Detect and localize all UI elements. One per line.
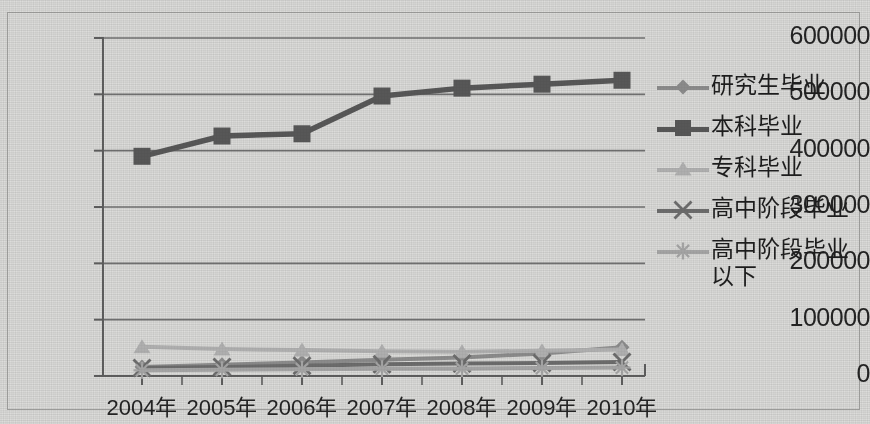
legend-item-2[interactable]: 专科毕业	[655, 154, 865, 182]
legend-label-0: 研究生毕业	[711, 72, 826, 99]
legend-item-0[interactable]: 研究生毕业	[655, 72, 865, 100]
legend-label-3: 高中阶段毕业	[711, 195, 849, 222]
series-2	[134, 339, 631, 358]
legend-marker-star-icon	[655, 238, 711, 264]
data-point-star	[134, 362, 151, 379]
data-point-star	[614, 359, 631, 376]
legend-item-1[interactable]: 本科毕业	[655, 113, 865, 141]
legend-marker-diamond-icon	[655, 74, 711, 100]
chart-legend: 研究生毕业本科毕业专科毕业高中阶段毕业高中阶段毕业以下	[655, 72, 865, 303]
x-tick-label: 2008年	[417, 389, 507, 421]
data-point-square	[614, 72, 631, 89]
legend-label-4: 高中阶段毕业以下	[711, 236, 861, 290]
data-point-star	[374, 360, 391, 377]
legend-marker-triangle-icon	[655, 156, 711, 182]
legend-label-2: 专科毕业	[711, 154, 803, 181]
data-point-square	[214, 128, 231, 145]
data-point-star	[454, 360, 471, 377]
x-tick-label: 2005年	[177, 389, 267, 421]
data-point-square	[294, 125, 311, 142]
y-tick-label: 0	[783, 359, 870, 388]
x-tick-label: 2010年	[577, 389, 667, 421]
x-tick-label: 2004年	[97, 389, 187, 421]
data-point-square	[134, 148, 151, 165]
data-point-square	[675, 120, 691, 136]
legend-label-1: 本科毕业	[711, 113, 803, 140]
series-group	[134, 72, 631, 379]
data-point-cross	[675, 202, 692, 219]
y-tick-label: 600000	[783, 21, 870, 50]
y-tick-label: 100000	[783, 303, 870, 332]
data-point-diamond	[676, 80, 691, 95]
legend-marker-square-icon	[655, 115, 711, 141]
x-tick-label: 2007年	[337, 389, 427, 421]
data-point-star	[675, 243, 692, 260]
legend-marker-cross-icon	[655, 197, 711, 223]
x-tick-label: 2009年	[497, 389, 587, 421]
gridlines	[103, 38, 645, 320]
data-point-star	[214, 361, 231, 378]
data-point-square	[374, 88, 391, 105]
chart-screenshot: 0100000200000300000400000500000600000 20…	[0, 0, 870, 424]
data-point-star	[534, 360, 551, 377]
legend-item-3[interactable]: 高中阶段毕业	[655, 195, 865, 223]
legend-item-4[interactable]: 高中阶段毕业以下	[655, 236, 865, 290]
x-tick-label: 2006年	[257, 389, 347, 421]
data-point-square	[454, 80, 471, 97]
data-point-triangle	[675, 162, 692, 176]
data-point-star	[294, 361, 311, 378]
data-point-square	[534, 76, 551, 93]
